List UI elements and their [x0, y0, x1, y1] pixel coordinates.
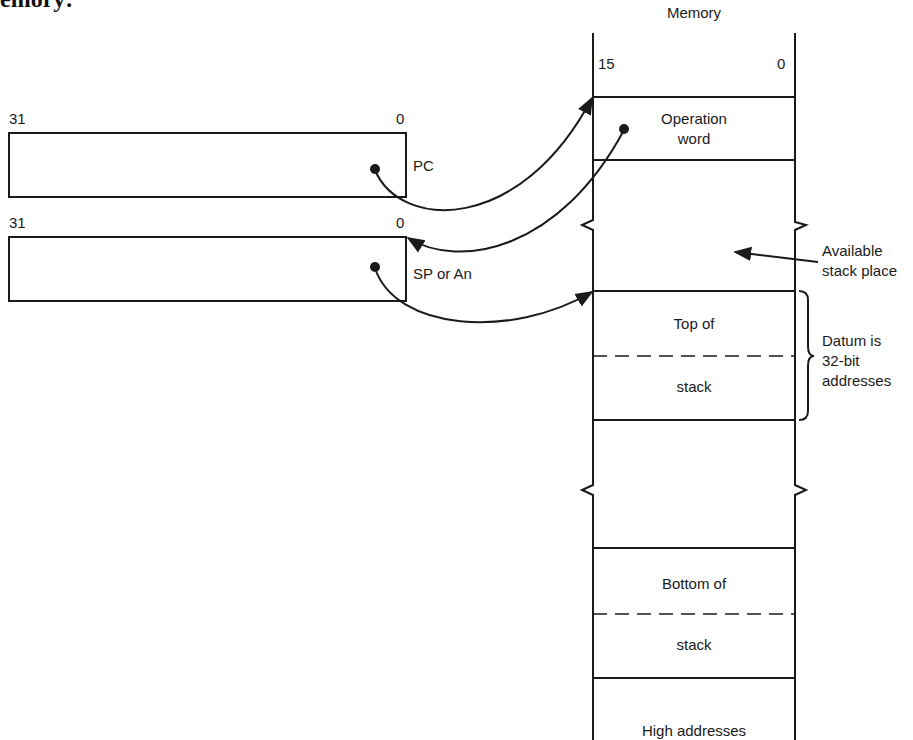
pc-bit-low: 0 [396, 110, 404, 128]
pc-register-box [9, 133, 406, 197]
datum-line1: Datum is [822, 332, 881, 350]
datum-line2: 32-bit [822, 352, 860, 370]
top-of-stack-label: Top of [593, 315, 795, 333]
pc-bit-high: 31 [9, 110, 26, 128]
available-stack-line2: stack place [822, 262, 897, 280]
bottom-of-stack-label: Bottom of [593, 575, 795, 593]
operation-to-sp-arrow [408, 130, 624, 252]
available-stack-pointer [735, 252, 818, 262]
stack-memory-diagram: emory: [0, 0, 913, 740]
sp-pointer-dot [370, 262, 380, 272]
pc-to-operation-arrow [375, 98, 592, 210]
memory-bit-low: 0 [777, 55, 785, 73]
memory-title: Memory [593, 4, 795, 22]
pc-pointer-dot [370, 164, 380, 174]
pc-register-label: PC [413, 157, 434, 175]
sp-register-box [9, 237, 406, 301]
top-of-stack-label-lower: stack [593, 378, 795, 396]
operation-word-line1: Operation [593, 110, 795, 128]
bottom-of-stack-label-lower: stack [593, 636, 795, 654]
datum-brace [799, 291, 814, 420]
datum-line3: addresses [822, 372, 891, 390]
high-addresses-label: High addresses [593, 722, 795, 740]
sp-bit-high: 31 [9, 214, 26, 232]
memory-bit-high: 15 [598, 55, 615, 73]
sp-register-label: SP or An [413, 265, 472, 283]
available-stack-line1: Available [822, 242, 883, 260]
memory-right-edge [795, 33, 806, 740]
memory-left-edge [582, 33, 593, 740]
sp-to-top-of-stack-arrow [375, 268, 592, 322]
sp-bit-low: 0 [396, 214, 404, 232]
operation-word-line2: word [593, 130, 795, 148]
